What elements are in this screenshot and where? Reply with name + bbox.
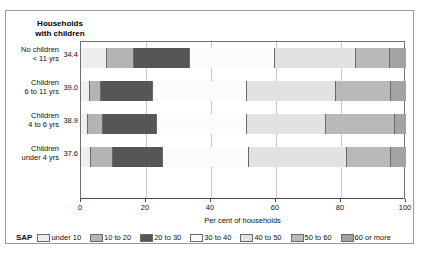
bar-segment[interactable] bbox=[275, 48, 356, 68]
x-axis-tick-label: 100 bbox=[390, 203, 420, 212]
legend-item[interactable]: 10 to 20 bbox=[90, 233, 131, 242]
legend-swatch bbox=[90, 234, 103, 242]
panel-title-line2: with children bbox=[35, 29, 84, 38]
x-axis-tick-label: 60 bbox=[260, 203, 290, 212]
legend-swatch bbox=[37, 234, 50, 242]
category-label: No children< 11 yrs34.4 bbox=[6, 45, 80, 63]
bar-segment[interactable] bbox=[153, 81, 247, 101]
legend-item[interactable]: 30 to 40 bbox=[190, 233, 231, 242]
bar-segment[interactable] bbox=[336, 81, 391, 101]
bar-segment[interactable] bbox=[356, 48, 390, 68]
legend-swatch bbox=[190, 234, 203, 242]
bar-segment[interactable] bbox=[90, 81, 101, 101]
legend-swatch bbox=[291, 234, 304, 242]
bar-segment[interactable] bbox=[249, 147, 347, 167]
x-axis-tick-label: 0 bbox=[65, 203, 95, 212]
bar-segment[interactable] bbox=[134, 48, 190, 68]
bar-segment[interactable] bbox=[391, 147, 406, 167]
legend-item[interactable]: 60 or more bbox=[341, 233, 391, 242]
legend-label: 60 or more bbox=[355, 233, 391, 242]
bar-segment[interactable] bbox=[391, 81, 406, 101]
x-axis-title: Per cent of households bbox=[80, 216, 405, 225]
bar-segment[interactable] bbox=[247, 114, 326, 134]
bar-segment[interactable] bbox=[113, 147, 163, 167]
bar-row[interactable] bbox=[81, 147, 404, 167]
bar-row[interactable] bbox=[81, 81, 404, 101]
bar-segment[interactable] bbox=[347, 147, 391, 167]
legend-label: 30 to 40 bbox=[204, 233, 231, 242]
bar-segment[interactable] bbox=[81, 48, 107, 68]
bar-row[interactable] bbox=[81, 114, 404, 134]
bar-segment[interactable] bbox=[81, 147, 91, 167]
legend-item[interactable]: 40 to 50 bbox=[240, 233, 281, 242]
plot-area bbox=[80, 41, 405, 199]
bar-segment[interactable] bbox=[81, 81, 90, 101]
legend-label: under 10 bbox=[51, 233, 81, 242]
legend-swatch bbox=[341, 234, 354, 242]
bar-segment[interactable] bbox=[107, 48, 134, 68]
legend-item[interactable]: 50 to 60 bbox=[291, 233, 332, 242]
category-value: 37.6 bbox=[63, 149, 78, 158]
legend-swatch bbox=[140, 234, 153, 242]
bar-segment[interactable] bbox=[88, 114, 104, 134]
x-axis-tick-label: 40 bbox=[195, 203, 225, 212]
bar-segment[interactable] bbox=[103, 114, 157, 134]
category-value: 34.4 bbox=[63, 50, 78, 59]
category-label: Children4 to 6 yrs38.9 bbox=[6, 111, 80, 129]
legend: SAP under 1010 to 2020 to 3030 to 4040 t… bbox=[16, 233, 407, 242]
x-axis-tick bbox=[275, 199, 276, 202]
bar-row[interactable] bbox=[81, 48, 404, 68]
legend-item[interactable]: under 10 bbox=[37, 233, 81, 242]
legend-title: SAP bbox=[16, 233, 32, 242]
legend-label: 20 to 30 bbox=[154, 233, 181, 242]
x-axis-tick bbox=[80, 199, 81, 202]
bar-segment[interactable] bbox=[91, 147, 113, 167]
bar-segment[interactable] bbox=[157, 114, 247, 134]
bar-segment[interactable] bbox=[190, 48, 275, 68]
x-axis-tick-label: 80 bbox=[325, 203, 355, 212]
legend-label: 10 to 20 bbox=[104, 233, 131, 242]
category-value: 39.0 bbox=[63, 83, 78, 92]
bar-segment[interactable] bbox=[101, 81, 153, 101]
chart-figure: Households with children No children< 11… bbox=[5, 10, 414, 244]
bar-segment[interactable] bbox=[247, 81, 336, 101]
x-axis-tick bbox=[145, 199, 146, 202]
x-axis-tick bbox=[405, 199, 406, 202]
category-label: Childrenunder 4 yrs37.6 bbox=[6, 144, 80, 162]
legend-label: 50 to 60 bbox=[305, 233, 332, 242]
legend-swatch bbox=[240, 234, 253, 242]
legend-label: 40 to 50 bbox=[254, 233, 281, 242]
x-axis-tick-label: 20 bbox=[130, 203, 160, 212]
bar-segment[interactable] bbox=[163, 147, 249, 167]
category-label: Children6 to 11 yrs39.0 bbox=[6, 78, 80, 96]
x-axis-tick bbox=[340, 199, 341, 202]
bar-segment[interactable] bbox=[395, 114, 406, 134]
panel-title-line1: Households bbox=[37, 19, 83, 28]
bar-segment[interactable] bbox=[326, 114, 395, 134]
legend-item[interactable]: 20 to 30 bbox=[140, 233, 181, 242]
category-value: 38.9 bbox=[63, 116, 78, 125]
bar-segment[interactable] bbox=[390, 48, 406, 68]
panel-title: Households with children bbox=[24, 19, 96, 38]
x-axis-tick bbox=[210, 199, 211, 202]
